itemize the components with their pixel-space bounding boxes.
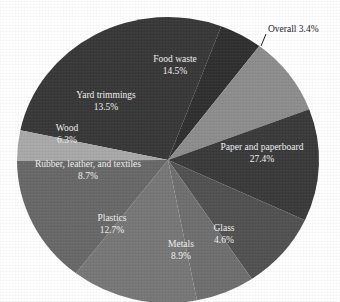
slice-label-glass-value: 4.6% [214, 235, 234, 245]
slice-label-paper-and-paperboard-name: Paper and paperboard [221, 142, 304, 152]
leader-line-overall [261, 34, 266, 46]
slice-label-plastics-name: Plastics [97, 213, 126, 223]
slice-label-metals-name: Metals [168, 239, 194, 249]
slice-label-metals-value: 8.9% [171, 251, 191, 261]
slice-label-wood-name: Wood [56, 123, 79, 133]
slice-label-yard-trimmings-value: 13.5% [94, 102, 119, 112]
slice-label-glass-name: Glass [213, 223, 234, 233]
pie-callout-overall: Overall 3.4% [261, 24, 319, 46]
slice-label-plastics-value: 12.7% [100, 225, 125, 235]
slice-label-wood-value: 6.3% [57, 135, 77, 145]
slice-label-paper-and-paperboard-value: 27.4% [250, 154, 275, 164]
callout-label-overall: Overall 3.4% [268, 24, 319, 34]
pie-chart-figure: Paper and paperboard 27.4% Glass 4.6% Me… [0, 0, 340, 302]
slice-label-food-waste-value: 14.5% [163, 66, 188, 76]
slice-label-food-waste-name: Food waste [153, 54, 197, 64]
pie-chart-svg: Paper and paperboard 27.4% Glass 4.6% Me… [0, 0, 340, 302]
slice-label-rubber-leather-and-textiles-value: 8.7% [78, 171, 98, 181]
slice-label-rubber-leather-and-textiles-name: Rubber, leather, and textiles [35, 159, 141, 169]
slice-label-yard-trimmings-name: Yard trimmings [76, 90, 136, 100]
